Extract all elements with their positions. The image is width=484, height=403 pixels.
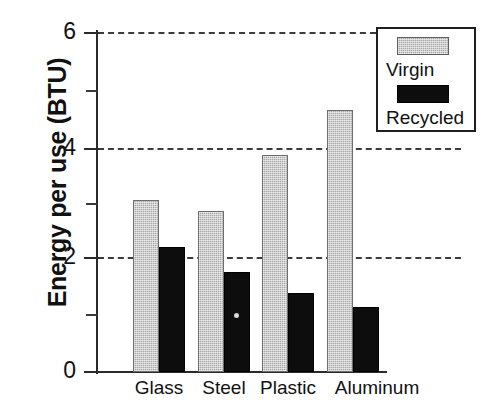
bar-steel-recycled bbox=[224, 0, 250, 372]
x-category-label-plastic: Plastic bbox=[243, 377, 333, 399]
bar-aluminum-virgin bbox=[327, 0, 353, 372]
bar-rect bbox=[288, 293, 314, 372]
bar-rect bbox=[327, 110, 353, 372]
legend-label-recycled: Recycled bbox=[386, 107, 478, 129]
bar-plastic-virgin bbox=[262, 0, 288, 372]
bar-glass-recycled bbox=[159, 0, 185, 372]
bar-rect bbox=[262, 155, 288, 372]
x-category-label-aluminum: Aluminum bbox=[324, 377, 430, 399]
legend-swatch-virgin-icon bbox=[397, 37, 449, 55]
legend: Virgin Recycled bbox=[376, 27, 476, 132]
bar-rect bbox=[353, 307, 379, 372]
bar-rect bbox=[133, 200, 159, 372]
bar-chart: Energy per use (BTU) 6 4 2 0 bbox=[0, 0, 484, 403]
bar-glass-virgin bbox=[133, 0, 159, 372]
bar-rect bbox=[224, 272, 250, 372]
bar-rect bbox=[198, 211, 224, 372]
legend-label-virgin: Virgin bbox=[386, 59, 478, 81]
bar-steel-virgin bbox=[198, 0, 224, 372]
bar-plastic-recycled bbox=[288, 0, 314, 372]
legend-swatch-recycled-icon bbox=[397, 85, 449, 103]
bar-rect bbox=[159, 247, 185, 372]
print-speck bbox=[234, 313, 239, 318]
